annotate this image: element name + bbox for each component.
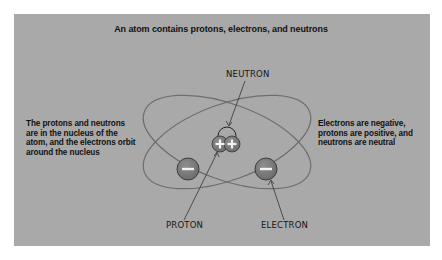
neutron-label: NEUTRON xyxy=(226,69,270,79)
electron-pointer xyxy=(271,181,284,220)
electron-particles xyxy=(177,158,277,180)
proton-label: PROTON xyxy=(166,220,203,230)
arrow-head-icon xyxy=(226,121,232,126)
electron-label: ELECTRON xyxy=(261,220,308,230)
proton-particles xyxy=(212,136,240,152)
atom-diagram xyxy=(0,0,442,260)
arrow-head-icon xyxy=(268,180,274,185)
